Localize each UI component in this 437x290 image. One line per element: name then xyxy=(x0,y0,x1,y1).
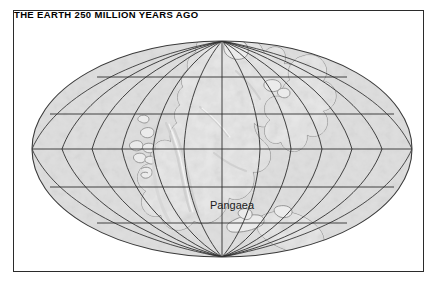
figure-frame: Pangaea xyxy=(13,10,424,272)
world-map-svg: Pangaea xyxy=(14,11,425,273)
map-stage: Pangaea xyxy=(14,11,425,273)
figure-title: THE EARTH 250 MILLION YEARS AGO xyxy=(14,9,199,20)
figure-page: Pangaea THE EARTH 250 MILLION YEARS AGO xyxy=(0,0,437,290)
island-west-j xyxy=(141,167,152,178)
pangaea-label: Pangaea xyxy=(210,199,255,211)
